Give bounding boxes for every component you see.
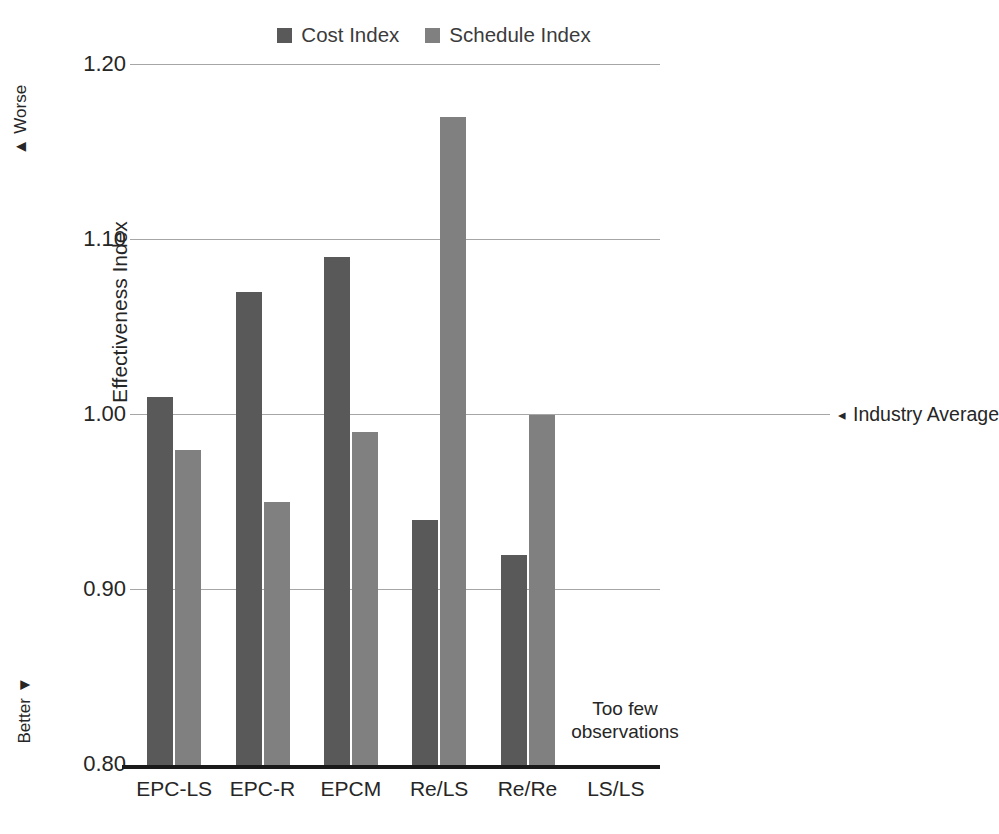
direction-marker-worse: ▲ Worse bbox=[11, 65, 31, 175]
bar-re-ls-schedule-index bbox=[440, 117, 466, 765]
legend-item-schedule-index: Schedule Index bbox=[425, 25, 590, 46]
bar-epc-r-schedule-index bbox=[264, 502, 290, 765]
legend-swatch-cost-index bbox=[277, 28, 292, 43]
x-label-re-re: Re/Re bbox=[483, 778, 571, 812]
legend-label-cost-index: Cost Index bbox=[301, 25, 399, 46]
x-label-re-ls: Re/LS bbox=[395, 778, 483, 812]
x-label-epcm: EPCM bbox=[307, 778, 395, 812]
bar-re-re-schedule-index bbox=[529, 415, 555, 766]
direction-label-worse: Worse bbox=[11, 85, 30, 134]
gridline-1-20 bbox=[130, 64, 660, 65]
x-axis-category-labels: EPC-LS EPC-R EPCM Re/LS Re/Re LS/LS bbox=[130, 778, 660, 812]
bar-epcm-schedule-index bbox=[352, 432, 378, 765]
bar-re-ls-cost-index bbox=[412, 520, 438, 765]
x-label-epc-ls: EPC-LS bbox=[130, 778, 218, 812]
chart-legend: Cost Index Schedule Index bbox=[0, 18, 868, 52]
legend-swatch-schedule-index bbox=[425, 28, 440, 43]
bar-epc-ls-schedule-index bbox=[175, 450, 201, 765]
too-few-line-2: observations bbox=[565, 720, 685, 743]
up-triangle-icon: ▲ bbox=[11, 138, 30, 155]
industry-average-label: Industry Average bbox=[853, 403, 999, 426]
gridline-1-10 bbox=[130, 239, 660, 240]
bar-epc-ls-cost-index bbox=[147, 397, 173, 765]
bar-re-re-cost-index bbox=[501, 555, 527, 765]
x-axis-baseline bbox=[122, 765, 660, 769]
legend-item-cost-index: Cost Index bbox=[277, 25, 399, 46]
too-few-line-1: Too few bbox=[565, 697, 685, 720]
left-triangle-icon: ◂ bbox=[838, 407, 846, 422]
y-tick-label: 0.90 bbox=[14, 578, 126, 600]
down-triangle-icon: ▼ bbox=[15, 677, 34, 694]
direction-label-better: Better bbox=[15, 698, 34, 743]
direction-marker-better: Better ▼ bbox=[15, 655, 35, 765]
x-label-ls-ls: LS/LS bbox=[572, 778, 660, 812]
gridline-0-90 bbox=[130, 589, 660, 590]
y-axis-title: Effectiveness Index bbox=[108, 162, 132, 462]
bar-epc-r-cost-index bbox=[236, 292, 262, 765]
too-few-observations-annotation: Too few observations bbox=[565, 697, 685, 743]
x-label-epc-r: EPC-R bbox=[218, 778, 306, 812]
legend-label-schedule-index: Schedule Index bbox=[449, 25, 590, 46]
industry-average-annotation: ◂ Industry Average bbox=[838, 403, 999, 426]
bar-epcm-cost-index bbox=[324, 257, 350, 765]
plot-area bbox=[130, 64, 660, 765]
